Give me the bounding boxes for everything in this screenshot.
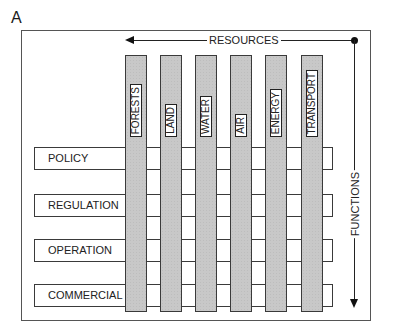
panel-letter: A [11,9,22,27]
function-label: POLICY [48,147,88,170]
resource-label-box: LAND [165,104,177,137]
function-label: REGULATION [48,194,119,217]
functions-axis-label: FUNCTIONS [349,170,361,238]
resource-column-land: LAND [160,55,182,312]
resource-column-transport: TRANSPORT [301,55,323,312]
resource-label-box: FORESTS [130,84,142,137]
arrow-left-icon [125,36,134,44]
function-label: COMMERCIAL [48,284,123,307]
resource-label-box: TRANSPORT [306,70,318,138]
resource-column-air: AIR [230,55,252,312]
resource-label: ENERGY [271,90,281,136]
resource-label: AIR [236,115,246,136]
resource-label: WATER [201,97,211,136]
resource-label: FORESTS [131,85,141,136]
resource-label-box: WATER [200,96,212,137]
resource-label-box: ENERGY [270,89,282,137]
resource-column-water: WATER [195,55,217,312]
function-label: OPERATION [48,239,112,262]
resource-column-forests: FORESTS [125,55,147,312]
resource-label: LAND [166,105,176,136]
resource-label: TRANSPORT [307,71,317,137]
arrow-down-icon [350,299,358,308]
resource-label-box: AIR [235,114,247,137]
resource-column-energy: ENERGY [265,55,287,312]
resources-axis-label: RESOURCES [207,34,281,46]
